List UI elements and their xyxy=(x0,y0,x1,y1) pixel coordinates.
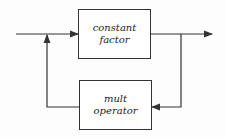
mult-operator-block: mult operator xyxy=(79,80,152,130)
constant-factor-block: constant factor xyxy=(78,9,151,59)
block-label-line: factor xyxy=(99,34,129,46)
feedback-arrow-left xyxy=(47,35,79,107)
block-diagram: constant factor mult operator xyxy=(0,0,225,137)
block-label-line: operator xyxy=(94,105,138,117)
block-label-line: mult xyxy=(104,93,127,105)
feedback-arrow-right xyxy=(152,34,181,107)
block-label-line: constant xyxy=(93,22,137,34)
